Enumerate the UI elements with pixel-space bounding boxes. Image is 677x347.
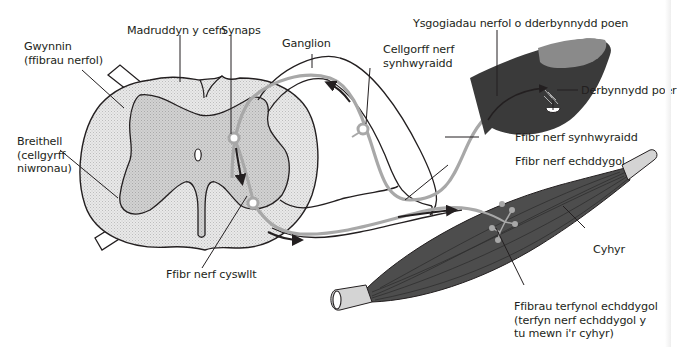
page-edge-shadow: [665, 0, 671, 347]
label-white-matter: Gwynnin (ffibrau nerfol): [24, 40, 103, 67]
label-nerve-impulses: Ysgogiadau nerfol o dderbynnydd poen: [413, 17, 628, 31]
label-grey-matter: Breithell (cellgyrff niwronau): [17, 135, 72, 176]
label-motor-end-fibres: Ffibrau terfynol echddygol (terfyn nerf …: [514, 300, 658, 341]
label-line: Breithell: [17, 135, 72, 149]
tendon-right: [622, 150, 657, 180]
sensory-cell-body: [352, 124, 368, 137]
label-line: Cellgorff nerf: [383, 43, 454, 57]
label-line: tu mewn i'r cyhyr): [514, 327, 658, 341]
label-ganglion: Ganglion: [282, 37, 331, 51]
label-line: niwronau): [17, 162, 72, 176]
label-muscle: Cyhyr: [593, 243, 625, 257]
label-sensory-cell-body: Cellgorff nerf synhwyraidd: [383, 43, 454, 70]
relay-motor-cell-body: [248, 198, 258, 208]
label-line: synhwyraidd: [383, 57, 454, 71]
label-relay-fibre: Ffibr nerf cyswllt: [166, 268, 256, 282]
synapse-cell-body: [229, 133, 239, 143]
spinal-cord-cross-section: [80, 76, 318, 250]
label-pain-receptor: Derbynnydd poer: [581, 84, 677, 98]
label-spinal-cord: Madruddyn y cefn: [127, 24, 226, 38]
label-line: (ffibrau nerfol): [24, 54, 103, 68]
label-synapse: Synaps: [221, 24, 261, 38]
label-line: (cellgyrff: [17, 149, 72, 163]
label-line: Ffibrau terfynol echddygol: [514, 300, 658, 314]
label-line: (terfyn nerf echddygol y: [514, 314, 658, 328]
label-line: Gwynnin: [24, 40, 103, 54]
label-motor-fibre: Ffibr nerf echddygol: [515, 155, 625, 169]
label-sensory-fibre: Ffibr nerf synhwyraidd: [515, 131, 638, 145]
